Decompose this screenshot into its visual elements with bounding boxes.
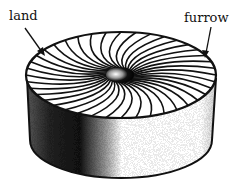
land-label: land — [9, 9, 38, 22]
millstone-illustration — [0, 0, 239, 191]
land-arrow — [25, 28, 45, 56]
furrow-label: furrow — [184, 11, 229, 24]
furrow-arrow — [202, 27, 211, 58]
millstone-eye — [106, 67, 134, 83]
millstone-top-face — [26, 32, 216, 118]
